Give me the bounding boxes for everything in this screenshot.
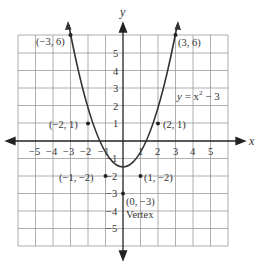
point-marker [86,122,90,126]
equation-label: y = x2 − 3 [176,89,220,102]
x-tick-labels: −5 −4 −3 −2 −1 1 2 3 4 5 [29,146,213,157]
x-tick: 3 [173,146,178,157]
point-label: (2, 1) [163,119,186,131]
x-axis-label: x [248,134,255,148]
point-marker [121,192,125,196]
point-label: (3, 6) [178,37,201,49]
point-marker [104,174,108,178]
point-label: (−3, 6) [36,36,65,48]
point-marker [156,122,160,126]
x-tick: −4 [46,146,58,157]
y-tick: 2 [113,101,118,112]
point-label: (−2, 1) [49,119,78,131]
y-tick: 1 [113,118,118,129]
y-tick: 5 [113,48,118,59]
x-tick: −2 [80,146,91,157]
y-tick: −4 [106,206,118,217]
point-label: (−1, −2) [59,172,94,184]
equation-rest: − 3 [203,90,221,102]
vertex-label: Vertex [126,209,154,220]
point-label: (1, −2) [144,172,173,184]
point-label: (0, −3) [126,196,155,208]
y-tick: 3 [113,83,118,94]
x-tick: 4 [190,146,196,157]
y-tick: 4 [113,66,119,77]
point-marker [139,174,143,178]
curve-arrow-left [65,21,72,30]
curve-arrow-right [175,21,182,30]
y-tick: −5 [106,223,117,234]
y-tick: −2 [106,171,117,182]
x-tick: 5 [208,146,213,157]
y-axis-label: y [119,5,126,19]
point-marker [69,33,73,37]
x-tick: −5 [29,146,40,157]
parabola-graph: x y −5 −4 −3 −2 −1 1 2 3 4 5 5 4 3 2 1 −… [0,0,262,265]
x-tick: 2 [155,146,160,157]
x-axis [6,138,245,145]
y-tick: −3 [106,188,117,199]
equation-eq: = x [182,90,200,102]
x-tick: −3 [63,146,74,157]
point-marker [174,33,178,37]
